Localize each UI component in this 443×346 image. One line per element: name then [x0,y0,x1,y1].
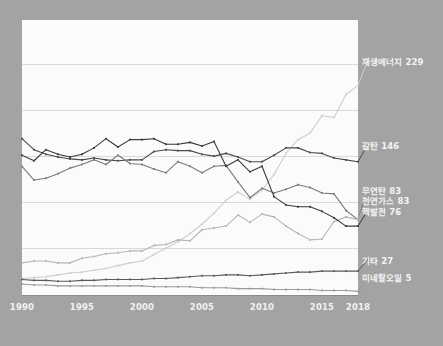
data-point-marker [213,227,215,229]
data-point-marker [309,271,311,273]
data-point-marker [45,177,47,179]
data-point-marker [189,240,191,242]
data-point-marker [105,164,107,166]
data-point-marker [45,276,47,278]
data-point-marker [273,174,275,176]
data-point-marker [213,275,215,277]
data-point-marker [225,199,227,201]
data-point-marker [225,287,227,289]
data-point-marker [33,179,35,181]
data-point-marker [165,172,167,174]
data-point-marker [81,285,83,287]
data-point-marker [153,168,155,170]
data-point-marker [153,138,155,140]
data-point-marker [201,172,203,174]
data-point-marker [105,268,107,270]
data-point-marker [33,160,35,162]
data-point-marker [117,279,119,281]
x-tick-2015: 2015 [310,302,334,312]
data-point-marker [189,233,191,235]
data-point-marker [309,289,311,291]
data-point-marker [285,272,287,274]
data-point-marker [237,288,239,290]
plot-area [22,20,358,296]
data-point-marker [261,274,263,276]
data-point-marker [261,165,263,167]
data-point-marker [201,229,203,231]
data-point-marker [177,239,179,241]
data-point-marker [225,153,227,155]
data-point-marker [261,161,263,163]
data-point-marker [81,153,83,155]
data-point-marker [57,173,59,175]
data-point-marker [249,199,251,201]
data-point-marker [273,154,275,156]
data-point-marker [189,165,191,167]
data-point-marker [105,159,107,161]
series-line [22,214,358,263]
data-point-marker [261,187,263,189]
data-point-marker [21,138,23,140]
data-point-marker [177,241,179,243]
series-기타 [21,259,368,282]
data-point-marker [201,145,203,147]
series-container [22,20,358,296]
data-point-marker [45,149,47,151]
data-point-marker [333,221,335,223]
x-tick-1995: 1995 [70,302,94,312]
data-point-marker [285,147,287,149]
data-point-marker [129,159,131,161]
data-point-marker [177,286,179,288]
series-label-핵발전: 핵발전 76 [362,205,401,217]
data-point-marker [249,171,251,173]
series-label-기타: 기타 27 [362,254,393,266]
data-point-marker [105,285,107,287]
data-point-marker [333,193,335,195]
data-point-marker [321,153,323,155]
data-point-marker [189,286,191,288]
data-point-marker [333,217,335,219]
data-point-marker [93,256,95,258]
data-point-marker [297,233,299,235]
data-point-marker [345,94,347,96]
series-갈탄 [21,138,368,163]
data-point-marker [117,285,119,287]
data-point-marker [81,257,83,259]
data-point-marker [249,275,251,277]
data-point-marker [273,216,275,218]
data-point-marker [237,156,239,158]
data-point-marker [189,276,191,278]
data-point-marker [141,139,143,141]
data-point-marker [297,206,299,208]
data-point-marker [273,289,275,291]
data-point-marker [165,143,167,145]
data-point-marker [69,167,71,169]
data-point-marker [321,192,323,194]
data-point-marker [129,163,131,165]
data-point-marker [141,260,143,262]
series-line [22,85,358,278]
data-point-marker [273,273,275,275]
data-point-marker [321,290,323,292]
data-point-marker [333,290,335,292]
data-point-marker [33,279,35,281]
data-point-marker [201,275,203,277]
data-point-marker [93,147,95,149]
data-point-marker [177,161,179,163]
data-point-marker [81,164,83,166]
data-point-marker [201,153,203,155]
data-point-marker [297,184,299,186]
data-point-marker [45,279,47,281]
data-point-marker [93,269,95,271]
x-tick-2005: 2005 [190,302,214,312]
series-label-미네랄오일: 미네랄오일 5 [362,271,412,283]
data-point-marker [117,252,119,254]
data-point-marker [189,150,191,152]
data-point-marker [321,238,323,240]
data-point-marker [237,191,239,193]
data-point-marker [129,285,131,287]
data-point-marker [345,225,347,227]
x-tick-2018: 2018 [346,302,370,312]
data-point-marker [177,150,179,152]
data-point-marker [285,204,287,206]
